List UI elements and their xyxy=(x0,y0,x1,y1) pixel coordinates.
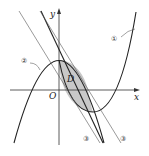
line-3b-label: ③ xyxy=(120,135,126,143)
line-3a-label: ③ xyxy=(83,135,89,143)
line-3b xyxy=(40,11,121,143)
line-3a xyxy=(19,11,100,143)
y-axis-arrow-icon xyxy=(57,8,61,14)
math-diagram: y x O D ① ② ③ ③ xyxy=(0,0,149,156)
origin-label: O xyxy=(49,91,57,101)
x-axis-label: x xyxy=(134,92,139,102)
region-d-label: D xyxy=(66,74,74,84)
leader-2 xyxy=(30,63,40,70)
y-axis-label: y xyxy=(49,9,56,19)
curve-2-label: ② xyxy=(21,57,27,65)
curve-1-label: ① xyxy=(111,35,117,43)
